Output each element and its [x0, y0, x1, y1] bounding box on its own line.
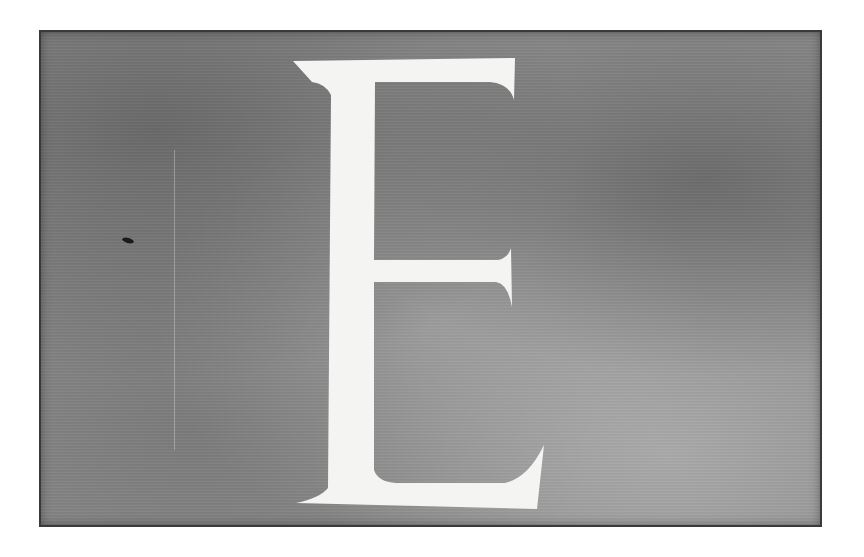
letter-e-glyph: E: [0, 0, 864, 557]
